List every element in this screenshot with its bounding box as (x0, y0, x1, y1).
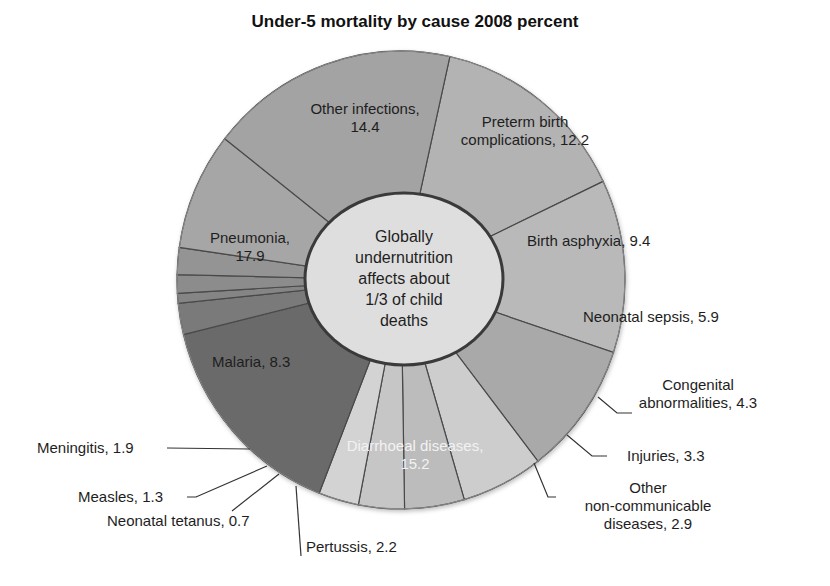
label-measles: Measles, 1.3 (78, 488, 163, 506)
label-malaria: Malaria, 8.3 (212, 353, 290, 371)
label-preterm: Preterm birthcomplications, 12.2 (440, 113, 610, 149)
leader-injuries (567, 435, 607, 456)
label-neonatal-tetanus: Neonatal tetanus, 0.7 (107, 512, 250, 530)
center-text: Globally undernutrition affects about 1/… (320, 226, 488, 331)
chart-title: Under-5 mortality by cause 2008 percent (0, 12, 830, 32)
label-neonatal-sepsis: Neonatal sepsis, 5.9 (583, 308, 719, 326)
leader-pertussis (296, 486, 301, 556)
leader-congenital (598, 397, 632, 413)
label-other-infections: Other infections,14.4 (280, 100, 450, 136)
label-meningitis: Meningitis, 1.9 (37, 439, 134, 457)
label-other-ncd: Othernon-communicablediseases, 2.9 (553, 479, 743, 533)
label-diarrhoeal: Diarrhoeal diseases,15.2 (325, 437, 505, 473)
label-birth-asphyxia: Birth asphyxia, 9.4 (527, 232, 650, 250)
label-injuries: Injuries, 3.3 (627, 447, 705, 465)
label-pneumonia: Pneumonia,17.9 (195, 229, 305, 265)
label-pertussis: Pertussis, 2.2 (306, 538, 397, 556)
label-congenital: Congenitalabnormalities, 4.3 (628, 376, 768, 412)
leader-neonatal-tetanus (232, 474, 279, 511)
leader-meningitis (167, 448, 250, 449)
